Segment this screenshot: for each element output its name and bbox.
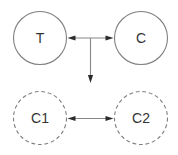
node-t-label: T [36,30,45,46]
edge-c1-c2-arrowhead-right [106,116,114,121]
node-c-label: C [136,30,146,46]
diagram-canvas: T C C1 C2 [0,0,178,155]
edge-down-arrowhead [88,75,93,83]
edge-c1-c2-arrowhead-left [68,116,76,121]
node-c1-label: C1 [31,110,49,126]
node-c2-label: C2 [132,110,150,126]
edge-t-c-arrowhead-left [68,35,76,40]
diagram-container: T C C1 C2 [0,0,178,155]
edge-t-c-arrowhead-right [106,35,114,40]
